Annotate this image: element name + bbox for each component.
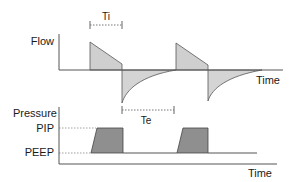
- pressure-pulse-1: [91, 128, 123, 153]
- pip-label: PIP: [36, 122, 54, 134]
- ti-bracket: [90, 21, 122, 29]
- expiratory-flow-1: [122, 70, 176, 103]
- te-bracket: [122, 106, 174, 114]
- pressure-time-label: Time: [248, 167, 272, 179]
- inspiratory-flow-1: [90, 42, 122, 70]
- flow-waveform: [90, 42, 262, 103]
- flow-axis-label: Flow: [31, 35, 54, 47]
- pressure-axis-label: Pressure: [13, 107, 57, 119]
- te-label: Te: [141, 115, 152, 126]
- ti-label: Ti: [102, 11, 110, 22]
- flow-time-label: Time: [256, 74, 280, 86]
- expiratory-flow-2: [208, 70, 262, 101]
- pressure-pulse-2: [177, 128, 208, 153]
- ventilation-waveform-diagram: Ti Flow Time: [0, 0, 291, 182]
- waveform-svg: Ti Flow Time: [0, 0, 291, 182]
- inspiratory-flow-2: [176, 43, 208, 70]
- flow-panel: Ti Flow Time: [31, 11, 283, 126]
- peep-label: PEEP: [25, 146, 54, 158]
